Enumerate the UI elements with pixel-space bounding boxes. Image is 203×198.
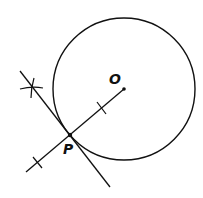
radius-line-extended — [26, 89, 124, 172]
construction-diagram — [0, 0, 203, 198]
label-P: P — [63, 142, 73, 156]
center-point-O — [122, 87, 126, 91]
arc-intersection-mark — [20, 78, 43, 98]
point-P — [68, 133, 72, 137]
tick-mark-upper — [97, 102, 106, 114]
tangent-line — [20, 71, 110, 187]
label-O: O — [109, 72, 121, 86]
tick-mark-lower — [33, 157, 42, 168]
